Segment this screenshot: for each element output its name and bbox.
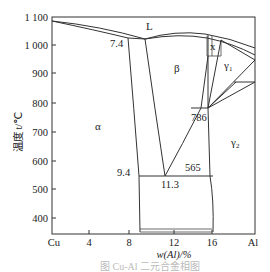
x-tick-8: 8 <box>126 237 131 248</box>
x-axis-title: w(Al)/% <box>157 249 192 261</box>
y-tick-900: 900 <box>32 68 48 79</box>
y-axis-title: 温度 t/℃ <box>12 112 24 152</box>
phase-label-alpha: α <box>95 120 101 132</box>
y-tick-500: 500 <box>32 184 48 195</box>
x-tick-12: 12 <box>169 237 180 248</box>
y-tick-700: 700 <box>32 127 48 138</box>
x-tick-cu: Cu <box>48 237 61 248</box>
phase-label-beta: β <box>174 62 180 74</box>
x-tick-16: 16 <box>207 237 218 248</box>
x-tick-4: 4 <box>86 237 92 248</box>
phase-diagram: 1 100 1 000 900 800 700 600 500 400 Cu 4… <box>0 0 270 272</box>
x-tick-al: Al <box>248 237 259 248</box>
y-tick-1100: 1 100 <box>24 12 48 23</box>
y-tick-400: 400 <box>32 213 48 224</box>
annotation-565: 565 <box>185 162 201 173</box>
phase-label-x: x <box>210 40 216 52</box>
phase-label-gamma2: γ2 <box>230 136 240 150</box>
annotation-9-4: 9.4 <box>117 167 131 178</box>
annotation-7-4: 7.4 <box>110 38 124 49</box>
plot-frame <box>52 17 255 234</box>
y-axis-ticks <box>52 45 56 218</box>
annotation-11-3: 11.3 <box>161 179 179 190</box>
annotation-786: 786 <box>191 112 207 123</box>
y-tick-600: 600 <box>32 156 48 167</box>
phase-label-liquid: L <box>146 20 153 32</box>
phase-boundaries <box>52 21 255 232</box>
y-tick-1000: 1 000 <box>24 40 48 51</box>
phase-label-gamma1: γ1 <box>223 59 233 73</box>
y-tick-800: 800 <box>32 98 48 109</box>
figure-caption: 图 Cu-Al 二元合金相图 <box>100 260 200 272</box>
